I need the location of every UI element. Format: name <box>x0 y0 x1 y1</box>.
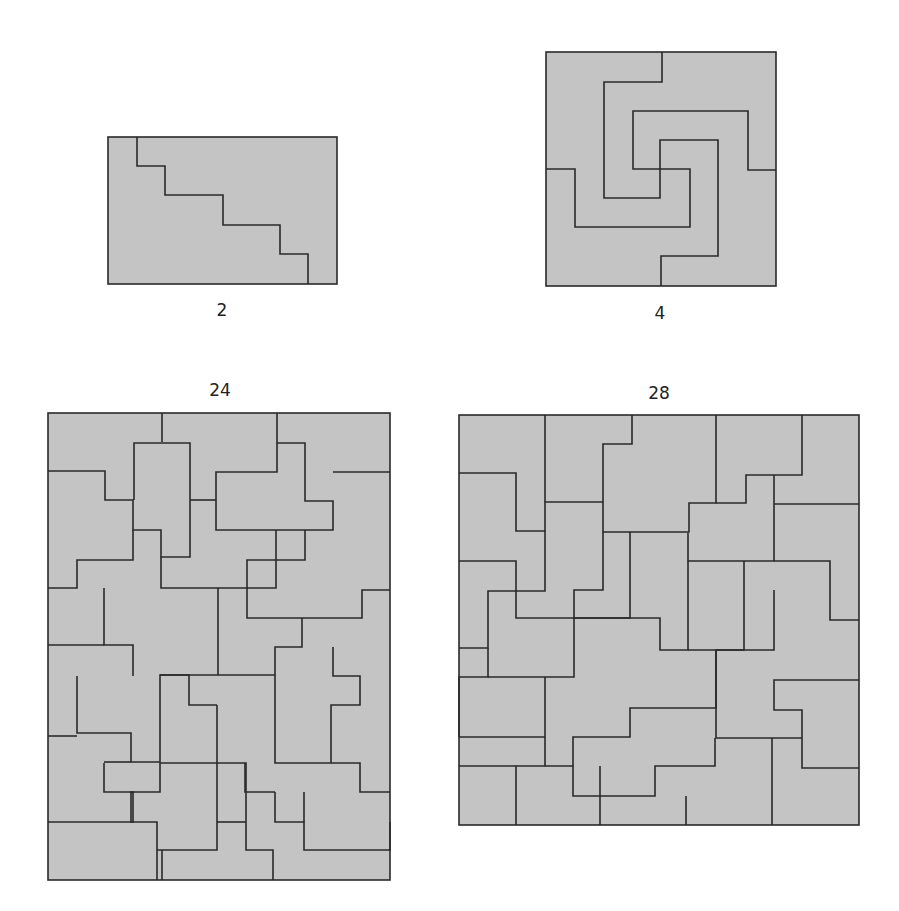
figure-2-tiling <box>108 137 337 284</box>
figure-2-label: 2 <box>217 300 228 320</box>
figure-28-label: 28 <box>648 383 670 403</box>
figure-4-label: 4 <box>655 303 666 323</box>
tiling-figures <box>0 0 899 911</box>
figure-24-label: 24 <box>209 380 231 400</box>
figure-28-tiling <box>459 415 859 825</box>
figure-4-tiling <box>546 52 776 286</box>
figure-24-tiling <box>48 413 390 880</box>
